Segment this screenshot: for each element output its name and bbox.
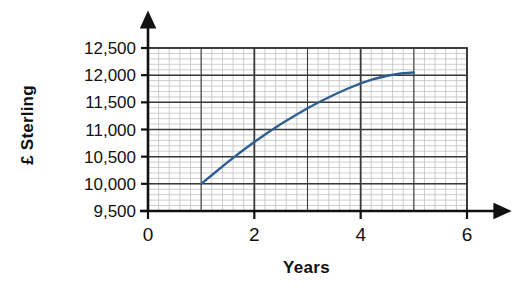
y-axis-tick-label: 11,500	[85, 93, 136, 112]
y-axis-tick-label: 11,000	[85, 121, 136, 140]
x-axis-tick-label: 4	[355, 224, 366, 245]
y-axis-tick-label: 12,500	[84, 39, 136, 58]
line-chart: 9,50010,00010,50011,00011,50012,00012,50…	[0, 0, 521, 296]
x-axis-tick-labels: 0246	[143, 224, 473, 245]
x-axis-tick-label: 2	[249, 224, 260, 245]
y-axis-tick-label: 10,500	[84, 148, 136, 167]
y-axis-tick-labels: 9,50010,00010,50011,00011,50012,00012,50…	[84, 39, 136, 221]
y-axis-tick-label: 12,000	[84, 66, 136, 85]
x-axis-tick-label: 0	[143, 224, 154, 245]
y-axis-tick-label: 10,000	[84, 175, 136, 194]
major-gridlines	[148, 48, 467, 211]
y-axis-tick-label: 9,500	[93, 202, 136, 221]
x-axis-tick-label: 6	[462, 224, 473, 245]
